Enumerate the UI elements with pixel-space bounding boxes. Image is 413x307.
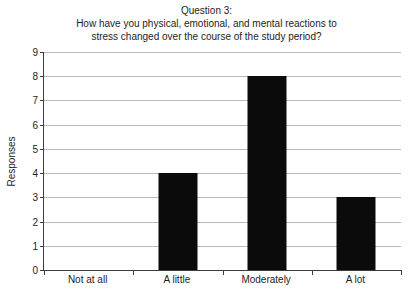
y-tick-label: 4 xyxy=(32,168,38,179)
y-axis-title: Responses xyxy=(4,52,18,270)
bar xyxy=(337,197,376,270)
bar-slot xyxy=(223,52,312,270)
y-tick-label: 1 xyxy=(32,240,38,251)
bar-slot xyxy=(44,52,133,270)
chart-title-line-3: stress changed over the course of the st… xyxy=(0,30,413,43)
x-axis-labels: Not at allA littleModeratelyA lot xyxy=(43,274,400,285)
y-tick-label: 8 xyxy=(32,71,38,82)
x-tick-label: Moderately xyxy=(222,274,311,285)
y-tick-label: 7 xyxy=(32,95,38,106)
chart-title-line-1: Question 3: xyxy=(0,4,413,17)
bar-slot xyxy=(312,52,401,270)
y-tick-label: 9 xyxy=(32,47,38,58)
y-tick-label: 6 xyxy=(32,119,38,130)
bar xyxy=(248,76,287,270)
y-tick-label: 2 xyxy=(32,216,38,227)
bar xyxy=(158,173,197,270)
y-tick-label: 5 xyxy=(32,143,38,154)
y-tick-label: 3 xyxy=(32,192,38,203)
chart-title-line-2: How have you physical, emotional, and me… xyxy=(0,17,413,30)
x-tick-mark xyxy=(401,270,402,275)
x-tick-label: Not at all xyxy=(43,274,132,285)
y-axis-title-label: Responses xyxy=(6,136,17,186)
y-tick-label: 0 xyxy=(32,265,38,276)
bar-slot xyxy=(133,52,222,270)
bar-series xyxy=(44,52,401,270)
plot-area: 0123456789 xyxy=(43,52,401,271)
x-tick-label: A lot xyxy=(311,274,400,285)
x-tick-label: A little xyxy=(132,274,221,285)
chart-title: Question 3: How have you physical, emoti… xyxy=(0,4,413,43)
